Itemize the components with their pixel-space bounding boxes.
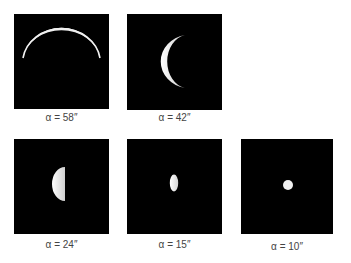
crescent-icon — [127, 14, 222, 110]
venus-image-58 — [14, 14, 109, 109]
venus-image-24 — [14, 139, 109, 234]
thin-crescent-icon — [14, 14, 109, 109]
panel-label: α = 58″ — [14, 112, 109, 124]
gibbous-phase-icon — [127, 139, 222, 234]
panel-label: α = 15″ — [127, 239, 222, 251]
full-phase-icon — [241, 139, 333, 234]
panel-label: α = 42″ — [127, 112, 222, 124]
half-phase-icon — [14, 139, 109, 234]
panel-label: α = 24″ — [14, 239, 109, 251]
venus-image-10 — [241, 139, 333, 234]
panel-label: α = 10″ — [241, 241, 333, 253]
venus-image-15 — [127, 139, 222, 234]
venus-image-42 — [127, 14, 222, 110]
